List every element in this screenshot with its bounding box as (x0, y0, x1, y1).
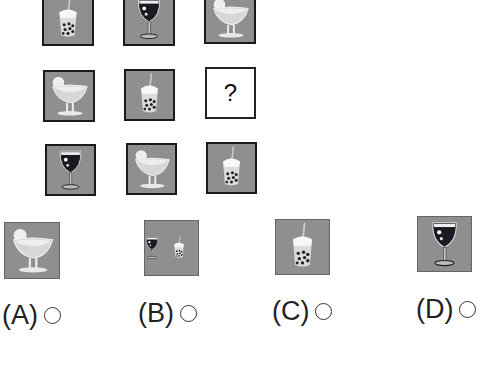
option-a[interactable]: (A) (2, 300, 61, 331)
bubble-tea-icon (172, 221, 199, 275)
option-b-label: (B) (138, 298, 174, 329)
margarita-glass-icon (206, 0, 254, 42)
option-d[interactable]: (D) (416, 294, 476, 325)
option-d-radio[interactable] (459, 301, 476, 318)
wine-glass-icon (145, 221, 172, 275)
option-a-label: (A) (2, 300, 38, 331)
option-c-label: (C) (272, 296, 309, 327)
option-c-radio[interactable] (315, 303, 332, 320)
bubble-tea-icon (208, 144, 255, 192)
wine-glass-icon (125, 0, 173, 44)
bubble-tea-icon (44, 0, 92, 44)
option-b[interactable]: (B) (138, 298, 197, 329)
grid-cell-missing: ? (205, 67, 256, 119)
option-b-image[interactable] (144, 220, 199, 276)
grid-cell-r3c1 (45, 144, 96, 196)
option-b-radio[interactable] (180, 305, 197, 322)
grid-cell-r1c2 (123, 0, 175, 46)
option-a-image[interactable] (4, 222, 60, 279)
question-mark: ? (224, 79, 237, 107)
option-c-image[interactable] (275, 219, 330, 275)
option-a-radio[interactable] (44, 307, 61, 324)
grid-cell-r1c3 (204, 0, 256, 44)
grid-cell-r2c2 (124, 69, 175, 121)
grid-cell-r1c1 (42, 0, 94, 46)
grid-cell-r2c1 (43, 70, 95, 122)
option-c[interactable]: (C) (272, 296, 332, 327)
option-d-image[interactable] (417, 216, 472, 272)
margarita-glass-icon (45, 72, 93, 120)
bubble-tea-icon (126, 71, 173, 119)
grid-cell-r3c3 (206, 142, 257, 194)
margarita-glass-icon (128, 145, 175, 193)
bubble-tea-icon (276, 220, 329, 274)
option-d-label: (D) (416, 294, 453, 325)
wine-glass-icon (47, 146, 94, 194)
grid-cell-r3c2 (126, 143, 177, 195)
margarita-glass-icon (5, 223, 59, 278)
wine-glass-icon (418, 217, 471, 271)
